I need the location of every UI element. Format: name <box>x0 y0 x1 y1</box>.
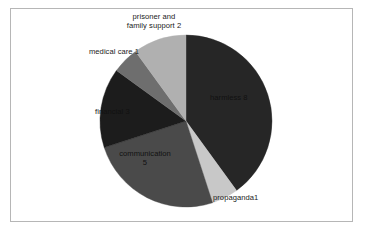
pie-label-communication-line2: 5 <box>143 158 147 167</box>
pie-chart-plot-area: prisoner and family support 2 medical ca… <box>0 0 368 236</box>
pie-label-harmless: harmless 8 <box>210 93 266 102</box>
pie-chart-svg <box>0 0 368 236</box>
pie-label-communication-line1: communication <box>119 149 171 158</box>
pie-label-prisoner-line2: family support 2 <box>127 21 181 30</box>
pie-label-medical-care-text: medical care 1 <box>89 47 139 56</box>
pie-label-prisoner-and-family-support: prisoner and family support 2 <box>96 12 212 31</box>
pie-slice-group <box>100 35 272 207</box>
pie-label-propaganda: propaganda1 <box>213 193 293 202</box>
pie-label-harmless-text: harmless 8 <box>210 93 248 102</box>
pie-label-communication: communication 5 <box>105 149 185 168</box>
pie-label-prisoner-line1: prisoner and <box>133 12 176 21</box>
pie-label-financial: financial 3 <box>95 107 161 116</box>
pie-label-propaganda-text: propaganda1 <box>213 193 258 202</box>
pie-label-medical-care: medical care 1 <box>60 47 168 56</box>
pie-label-financial-text: financial 3 <box>95 107 130 116</box>
